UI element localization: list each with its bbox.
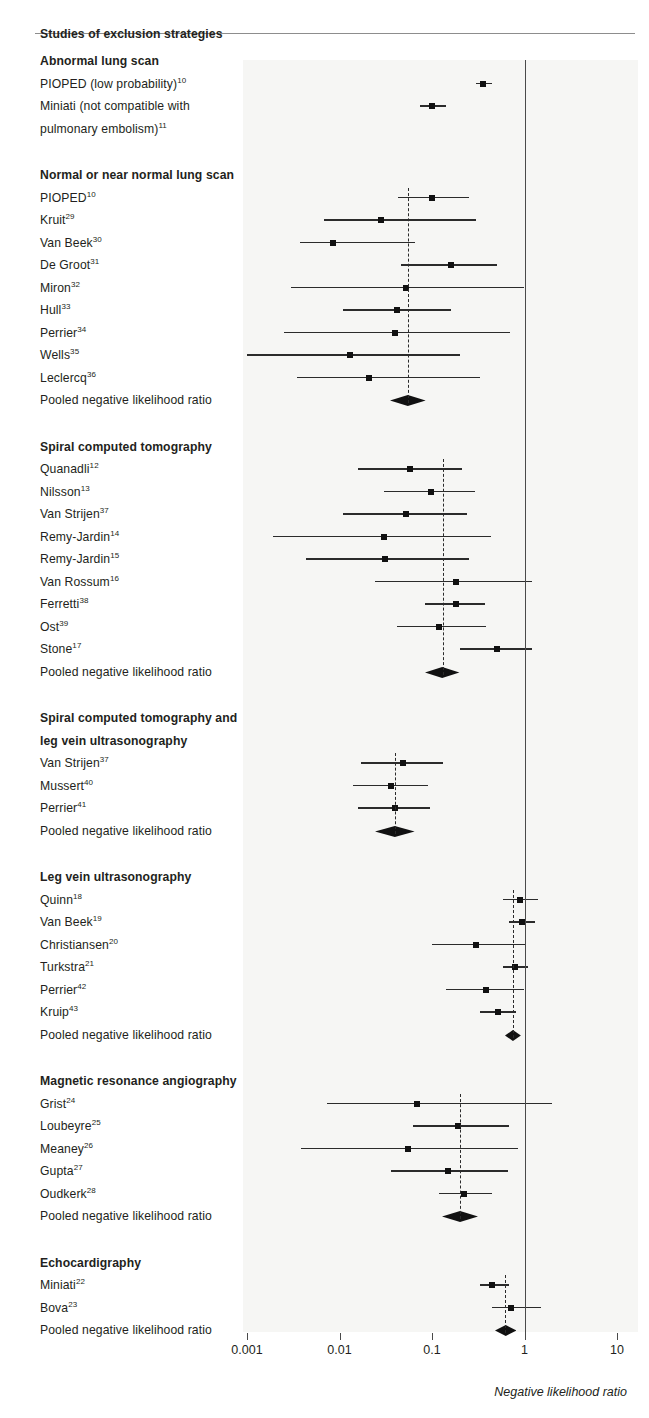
pooled-reference-dashed-line <box>443 459 444 675</box>
study-label: Quinn18 <box>40 894 82 907</box>
study-label: Kruit29 <box>40 214 75 227</box>
study-label: Pooled negative likelihood ratio <box>40 1324 212 1337</box>
study-label: Pooled negative likelihood ratio <box>40 394 212 407</box>
reference-superscript: 32 <box>71 279 80 288</box>
point-estimate-marker <box>405 1146 411 1152</box>
axis-tick-label: 0.001 <box>231 1343 262 1357</box>
point-estimate-marker <box>381 534 387 540</box>
reference-superscript: 15 <box>110 551 119 560</box>
group-heading: Spiral computed tomography and <box>40 712 237 725</box>
axis-tick-label: 1 <box>521 1343 528 1357</box>
pooled-reference-dashed-line <box>408 188 409 404</box>
reference-superscript: 13 <box>81 483 90 492</box>
reference-superscript: 36 <box>87 369 96 378</box>
reference-superscript: 41 <box>77 800 86 809</box>
axis-tick-label: 0.1 <box>423 1343 440 1357</box>
reference-superscript: 18 <box>73 891 82 900</box>
reference-superscript: 12 <box>90 461 99 470</box>
point-estimate-marker <box>414 1101 420 1107</box>
point-estimate-marker <box>483 987 489 993</box>
reference-superscript: 33 <box>61 302 70 311</box>
point-estimate-marker <box>429 195 435 201</box>
confidence-interval-line <box>300 242 415 243</box>
study-label: Remy-Jardin14 <box>40 531 119 544</box>
point-estimate-marker <box>403 511 409 517</box>
point-estimate-marker <box>448 262 454 268</box>
study-label: Van Beek30 <box>40 237 102 250</box>
study-label: Mussert40 <box>40 780 93 793</box>
study-label: Christiansen20 <box>40 939 118 952</box>
pooled-reference-dashed-line <box>505 1275 506 1333</box>
group-heading: Leg vein ultrasonography <box>40 871 191 884</box>
study-label: Perrier41 <box>40 802 86 815</box>
pooled-reference-dashed-line <box>395 753 396 834</box>
reference-superscript: 23 <box>68 1299 77 1308</box>
confidence-interval-line <box>327 1103 552 1104</box>
study-label: Turkstra21 <box>40 961 94 974</box>
reference-superscript: 14 <box>110 528 119 537</box>
figure-title: Studies of exclusion strategies <box>40 28 223 41</box>
study-label: Miron32 <box>40 282 80 295</box>
confidence-interval-line <box>492 1307 541 1308</box>
axis-tick <box>525 1333 526 1340</box>
point-estimate-marker <box>429 103 435 109</box>
point-estimate-marker <box>495 1009 501 1015</box>
reference-superscript: 40 <box>84 777 93 786</box>
study-label: Quanadli12 <box>40 463 99 476</box>
study-label: Oudkerk28 <box>40 1188 96 1201</box>
axis-tick <box>340 1333 341 1340</box>
study-label: Bova23 <box>40 1302 77 1315</box>
reference-superscript: 30 <box>93 234 102 243</box>
reference-superscript: 35 <box>70 347 79 356</box>
group-heading: Echocardigraphy <box>40 1257 141 1270</box>
study-label: Van Beek19 <box>40 916 102 929</box>
reference-superscript: 10 <box>87 189 96 198</box>
null-effect-line <box>525 60 526 1335</box>
point-estimate-marker <box>428 489 434 495</box>
point-estimate-marker <box>453 601 459 607</box>
reference-superscript: 20 <box>109 936 118 945</box>
study-label: Miniati22 <box>40 1279 85 1292</box>
reference-superscript: 42 <box>77 981 86 990</box>
study-label: Van Strijen37 <box>40 757 109 770</box>
pooled-reference-dashed-line <box>513 890 514 1038</box>
axis-tick-label: 10 <box>610 1343 624 1357</box>
study-label: Wells35 <box>40 349 79 362</box>
study-label: Grist24 <box>40 1098 75 1111</box>
confidence-interval-line <box>247 354 460 355</box>
forest-plot-figure: Abnormal lung scanPIOPED (low probabilit… <box>0 0 649 1418</box>
point-estimate-marker <box>508 1305 514 1311</box>
study-label: Van Rossum16 <box>40 576 119 589</box>
reference-superscript: 39 <box>59 618 68 627</box>
point-estimate-marker <box>330 240 336 246</box>
point-estimate-marker <box>366 375 372 381</box>
study-label: Miniati (not compatible with <box>40 100 190 113</box>
point-estimate-marker <box>407 466 413 472</box>
reference-superscript: 10 <box>177 75 186 84</box>
study-label: Ost39 <box>40 621 68 634</box>
pooled-reference-dashed-line <box>460 1094 461 1220</box>
study-label: Ferretti38 <box>40 598 89 611</box>
reference-superscript: 37 <box>100 755 109 764</box>
reference-superscript: 11 <box>158 120 167 129</box>
point-estimate-marker <box>436 624 442 630</box>
reference-superscript: 29 <box>66 212 75 221</box>
reference-superscript: 31 <box>90 257 99 266</box>
point-estimate-marker <box>517 897 523 903</box>
study-label: Loubeyre25 <box>40 1120 101 1133</box>
group-heading: Abnormal lung scan <box>40 55 159 68</box>
point-estimate-marker <box>394 307 400 313</box>
axis-tick <box>432 1333 433 1340</box>
point-estimate-marker <box>400 760 406 766</box>
study-label: Pooled negative likelihood ratio <box>40 666 212 679</box>
axis-tick-label: 0.01 <box>327 1343 351 1357</box>
reference-superscript: 22 <box>76 1277 85 1286</box>
axis-tick <box>247 1333 248 1340</box>
reference-superscript: 26 <box>84 1140 93 1149</box>
study-label: Remy-Jardin15 <box>40 553 119 566</box>
study-label: Gupta27 <box>40 1165 83 1178</box>
plot-background <box>243 60 638 1332</box>
study-label: Meaney26 <box>40 1143 93 1156</box>
point-estimate-marker <box>347 352 353 358</box>
point-estimate-marker <box>388 783 394 789</box>
